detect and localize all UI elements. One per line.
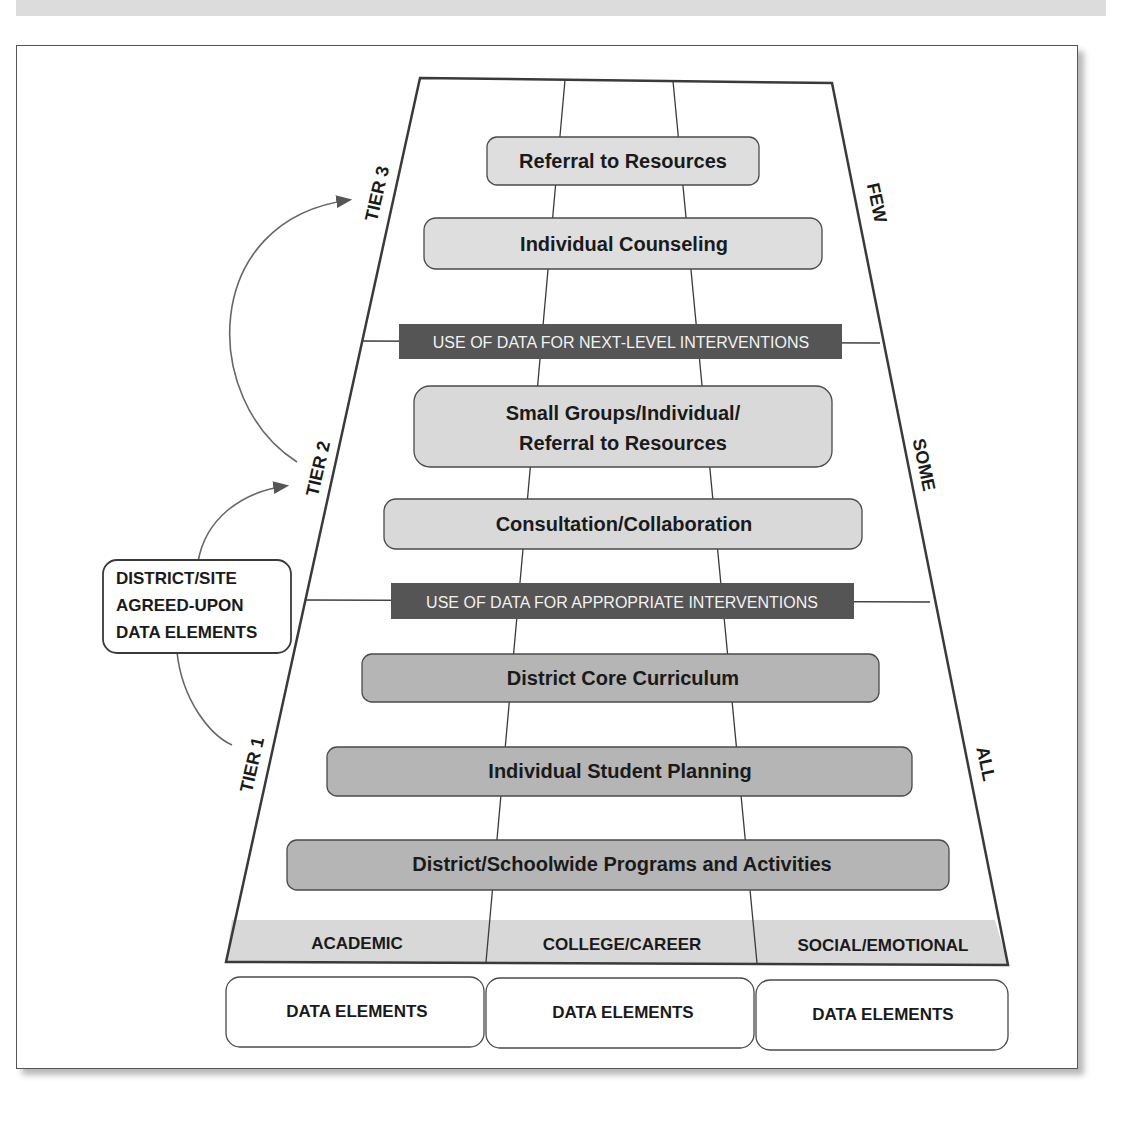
- svg-text:Referral to Resources: Referral to Resources: [519, 150, 727, 172]
- svg-text:DATA ELEMENTS: DATA ELEMENTS: [286, 1002, 427, 1021]
- svg-text:District/Schoolwide Programs a: District/Schoolwide Programs and Activit…: [412, 853, 831, 875]
- svg-text:DATA ELEMENTS: DATA ELEMENTS: [812, 1005, 953, 1024]
- intervention-individual-student-planning: Individual Student Planning: [327, 747, 912, 796]
- domain-academic: ACADEMIC: [311, 934, 403, 953]
- data-elements-academic: DATA ELEMENTS: [226, 977, 484, 1047]
- connector-callout-to-tier1: [177, 652, 232, 745]
- domain-college-career: COLLEGE/CAREER: [543, 935, 702, 954]
- intervention-district-core-curriculum: District Core Curriculum: [362, 654, 879, 702]
- svg-text:USE OF DATA FOR APPROPRIATE IN: USE OF DATA FOR APPROPRIATE INTERVENTION…: [426, 594, 818, 611]
- svg-text:Individual Student Planning: Individual Student Planning: [488, 760, 751, 782]
- tier1-label: TIER 1: [236, 735, 268, 794]
- mtss-diagram: Referral to Resources Individual Counsel…: [0, 0, 1123, 1140]
- arrow-callout-to-tier2: [198, 486, 286, 562]
- appropriate-data-band: USE OF DATA FOR APPROPRIATE INTERVENTION…: [391, 583, 854, 619]
- reach-few-label: FEW: [863, 181, 891, 224]
- intervention-consultation-collaboration: Consultation/Collaboration: [384, 499, 862, 549]
- svg-text:USE OF DATA FOR NEXT-LEVEL INT: USE OF DATA FOR NEXT-LEVEL INTERVENTIONS: [433, 334, 809, 351]
- svg-text:DATA ELEMENTS: DATA ELEMENTS: [116, 623, 257, 642]
- svg-text:DATA ELEMENTS: DATA ELEMENTS: [552, 1003, 693, 1022]
- next-level-data-band: USE OF DATA FOR NEXT-LEVEL INTERVENTIONS: [399, 324, 842, 359]
- svg-text:Small Groups/Individual/: Small Groups/Individual/: [506, 402, 741, 424]
- reach-all-label: ALL: [972, 745, 999, 783]
- tier3-label: TIER 3: [361, 164, 393, 223]
- intervention-referral-to-resources: Referral to Resources: [487, 137, 759, 185]
- svg-text:Consultation/Collaboration: Consultation/Collaboration: [496, 513, 753, 535]
- intervention-small-groups: Small Groups/Individual/ Referral to Res…: [414, 386, 832, 467]
- intervention-individual-counseling: Individual Counseling: [424, 218, 822, 269]
- agreed-upon-data-callout: DISTRICT/SITE AGREED-UPON DATA ELEMENTS: [103, 560, 291, 653]
- svg-text:Individual Counseling: Individual Counseling: [520, 233, 728, 255]
- svg-text:AGREED-UPON: AGREED-UPON: [116, 596, 244, 615]
- svg-text:District Core Curriculum: District Core Curriculum: [507, 667, 739, 689]
- domain-social-emotional: SOCIAL/EMOTIONAL: [798, 936, 969, 955]
- svg-text:DISTRICT/SITE: DISTRICT/SITE: [116, 569, 237, 588]
- svg-text:Referral to Resources: Referral to Resources: [519, 432, 727, 454]
- arrow-tier2-to-tier3: [230, 200, 349, 462]
- data-elements-college-career: DATA ELEMENTS: [486, 978, 754, 1048]
- data-elements-social-emotional: DATA ELEMENTS: [756, 980, 1008, 1050]
- intervention-schoolwide-programs: District/Schoolwide Programs and Activit…: [287, 840, 949, 890]
